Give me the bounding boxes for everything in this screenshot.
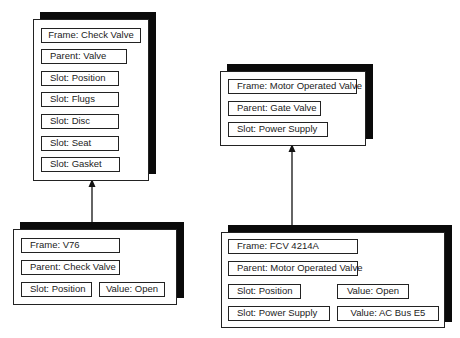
parent-box: Parent: Motor Operated Valve — [228, 261, 358, 276]
arrow-fcv-to-motor-operated-valve — [289, 144, 296, 232]
slot-box: Slot: Seat — [41, 136, 119, 151]
value-box: Value: Open — [99, 282, 165, 297]
frame-name-box: Frame: Check Valve — [41, 28, 141, 43]
frame-name-box: Frame: V76 — [21, 238, 120, 253]
slot-box: Slot: Flugs — [41, 92, 119, 107]
parent-box: Parent: Gate Valve — [228, 101, 321, 116]
value-box: Value: AC Bus E5 — [337, 306, 439, 321]
parent-box: Parent: Check Valve — [21, 260, 120, 275]
slot-box: Slot: Gasket — [41, 157, 120, 172]
slot-box: Slot: Power Supply — [228, 306, 330, 321]
frame-name-box: Frame: FCV 4214A — [228, 239, 358, 254]
parent-box: Parent: Valve — [41, 49, 127, 64]
slot-box: Slot: Disc — [41, 114, 119, 129]
value-box: Value: Open — [337, 284, 409, 299]
slot-box: Slot: Power Supply — [228, 122, 328, 137]
arrow-v76-to-check-valve — [89, 179, 96, 228]
frame-name-box: Frame: Motor Operated Valve — [228, 79, 357, 94]
slot-box: Slot: Position — [21, 282, 92, 297]
slot-box: Slot: Position — [228, 284, 301, 299]
slot-box: Slot: Position — [41, 71, 119, 86]
